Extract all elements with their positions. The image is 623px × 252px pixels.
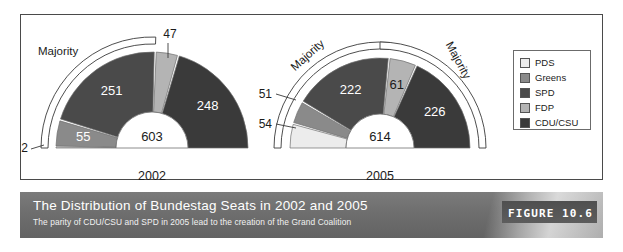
- legend-swatch-fdp: [520, 103, 530, 113]
- caption-subtitle: The parity of CDU/CSU and SPD in 2005 le…: [33, 217, 351, 227]
- legend-label-cducsu: CDU/CSU: [535, 118, 578, 128]
- seat-label-greens-2005: 51: [259, 87, 273, 101]
- majority-label-2002: Majority: [38, 45, 79, 57]
- chart-2002: 60355251248Majority4722002: [21, 27, 248, 183]
- legend-label-spd: SPD: [535, 88, 555, 98]
- seat-label-cdu-csu: 248: [197, 98, 219, 113]
- legend-swatch-greens: [520, 73, 530, 83]
- figure-number-text: FIGURE 10.6: [508, 207, 593, 220]
- year-label-2002: 2002: [138, 169, 166, 183]
- caption-band: The Distribution of Bundestag Seats in 2…: [20, 192, 603, 238]
- legend-item-cducsu: CDU/CSU: [520, 116, 585, 130]
- legend-swatch-cducsu: [520, 118, 530, 128]
- legend-item-pds: PDS: [520, 56, 585, 70]
- legend-label-fdp: FDP: [535, 103, 554, 113]
- legend-swatch-pds: [520, 58, 530, 68]
- legend-swatch-spd: [520, 88, 530, 98]
- seat-label-pds-2005: 54: [259, 117, 273, 131]
- figure-number-badge: FIGURE 10.6: [502, 201, 597, 223]
- seat-label-spd: 222: [340, 82, 362, 97]
- caption-title: The Distribution of Bundestag Seats in 2…: [33, 198, 368, 213]
- seat-label-pds-2002: 2: [21, 141, 28, 155]
- year-label-2005: 2005: [366, 169, 394, 183]
- legend-item-greens: Greens: [520, 71, 585, 85]
- legend-item-fdp: FDP: [520, 101, 585, 115]
- seat-label-greens: 55: [76, 129, 90, 144]
- chart-2005: 61422261226MajorityMajority51542005: [259, 37, 486, 183]
- total-seats: 603: [141, 129, 163, 144]
- seat-label-fdp-2002: 47: [163, 27, 177, 41]
- total-seats: 614: [369, 129, 391, 144]
- seat-label-fdp: 61: [389, 77, 403, 92]
- legend-label-pds: PDS: [535, 58, 555, 68]
- legend: PDS Greens SPD FDP CDU/CSU: [513, 50, 591, 130]
- seat-label-spd: 251: [101, 83, 123, 98]
- figure-container: 60355251248Majority4722002 61422261226Ma…: [0, 0, 623, 252]
- legend-label-greens: Greens: [535, 73, 566, 83]
- legend-item-spd: SPD: [520, 86, 585, 100]
- seat-label-cdu-csu: 226: [424, 104, 446, 119]
